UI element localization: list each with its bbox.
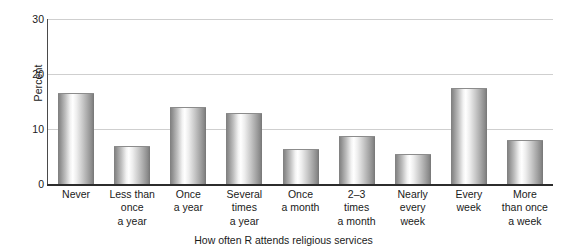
bar-series [48, 19, 553, 184]
x-tick-label: 2–3timesa month [327, 188, 387, 228]
y-tick-label-30: 30 [10, 14, 44, 25]
y-tick-label-0: 0 [10, 179, 44, 190]
bar-chart: Percent 0102030 NeverLess thanoncea year… [0, 0, 567, 251]
x-tick-label: Never [46, 188, 106, 201]
bar [395, 154, 431, 184]
x-tick-label: Oncea month [271, 188, 331, 215]
bar [170, 107, 206, 184]
x-axis-line [47, 184, 553, 186]
bar [283, 149, 319, 184]
x-tick-label: Severaltimesa year [214, 188, 274, 228]
x-axis-title: How often R attends religious services [0, 234, 567, 246]
y-axis-ticks: 0102030 [5, 0, 44, 251]
y-tick-label-10: 10 [10, 124, 44, 135]
x-tick-label: Less thanoncea year [102, 188, 162, 228]
bar [58, 93, 94, 184]
y-tick-label-20: 20 [10, 69, 44, 80]
bar [507, 140, 543, 184]
x-tick-label: Morethan oncea week [495, 188, 555, 228]
bar [114, 146, 150, 185]
x-tick-label: Oncea year [158, 188, 218, 215]
x-tick-label: Nearlyeveryweek [383, 188, 443, 228]
bar [339, 136, 375, 184]
x-tick-label: Everyweek [439, 188, 499, 215]
x-axis-ticks: NeverLess thanoncea yearOncea yearSevera… [48, 188, 553, 234]
bar [226, 113, 262, 185]
bar [451, 88, 487, 184]
